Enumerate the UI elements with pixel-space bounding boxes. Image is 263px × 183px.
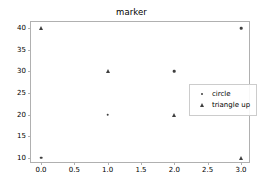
y-tick-label: 35 <box>17 46 26 54</box>
chart-title: marker <box>0 7 263 17</box>
triangle-up-marker-icon <box>239 156 243 160</box>
chart-legend: circletriangle up <box>189 84 257 116</box>
circle-marker-icon <box>240 27 243 30</box>
y-tick-mark <box>28 136 31 137</box>
x-tick-label: 1.0 <box>102 166 113 174</box>
x-tick-label: 2.5 <box>202 166 213 174</box>
y-tick-mark <box>28 28 31 29</box>
x-tick-mark <box>241 162 242 165</box>
x-tick-label: 3.0 <box>235 166 246 174</box>
y-tick-mark <box>28 50 31 51</box>
y-tick-label: 15 <box>17 132 26 140</box>
legend-entry-circle: circle <box>194 89 250 100</box>
triangle-up-marker-icon <box>39 26 43 30</box>
legend-marker-slot <box>194 103 210 107</box>
legend-label: circle <box>210 90 231 98</box>
y-tick-label: 10 <box>17 154 26 162</box>
legend-label: triangle up <box>210 101 250 109</box>
x-tick-mark <box>208 162 209 165</box>
circle-marker-icon <box>173 70 176 73</box>
x-tick-mark <box>108 162 109 165</box>
triangle-up-marker-icon <box>200 103 204 107</box>
plot-area: 10152025303540 0.00.51.01.52.02.53.0 cir… <box>30 21 250 163</box>
circle-marker-icon <box>106 113 109 116</box>
y-tick-label: 25 <box>17 89 26 97</box>
y-tick-mark <box>28 93 31 94</box>
x-tick-label: 0.0 <box>35 166 46 174</box>
matplotlib-figure: marker 10152025303540 0.00.51.01.52.02.5… <box>0 0 263 183</box>
x-tick-label: 0.5 <box>69 166 80 174</box>
x-tick-mark <box>174 162 175 165</box>
y-tick-mark <box>28 158 31 159</box>
y-tick-mark <box>28 71 31 72</box>
legend-marker-slot <box>194 93 210 96</box>
x-tick-label: 1.5 <box>135 166 146 174</box>
x-tick-label: 2.0 <box>169 166 180 174</box>
y-tick-label: 40 <box>17 24 26 32</box>
triangle-up-marker-icon <box>172 113 176 117</box>
triangle-up-marker-icon <box>106 69 110 73</box>
y-tick-mark <box>28 115 31 116</box>
legend-entry-triangle-up: triangle up <box>194 100 250 111</box>
x-tick-mark <box>74 162 75 165</box>
circle-marker-icon <box>201 93 204 96</box>
x-tick-mark <box>41 162 42 165</box>
circle-marker-icon <box>40 156 43 159</box>
y-tick-label: 30 <box>17 67 26 75</box>
y-tick-label: 20 <box>17 111 26 119</box>
x-tick-mark <box>141 162 142 165</box>
